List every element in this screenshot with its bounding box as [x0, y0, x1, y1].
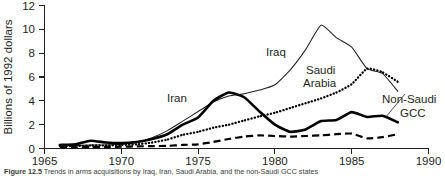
x-tick-label-1980: 1980	[262, 155, 288, 167]
y-tick-label-8: 8	[29, 47, 35, 59]
x-tick-label-1985: 1985	[339, 155, 365, 167]
y-tick-label-4: 4	[29, 95, 36, 107]
y-tick-label-12: 12	[22, 0, 35, 12]
series-label-non-saudi-gcc-line1: Non-Saudi	[382, 93, 436, 105]
line-chart: 12 10 8 6 4 2 0 1965 1970 1975 1980 1985…	[0, 0, 445, 176]
series-label-non-saudi-gcc: Non-Saudi GCC	[382, 93, 436, 119]
figure-container: 12 10 8 6 4 2 0 1965 1970 1975 1980 1985…	[0, 0, 445, 176]
figure-caption-number: 12.5	[28, 167, 42, 176]
series-label-non-saudi-gcc-line2: GCC	[400, 107, 426, 119]
x-tick-label-1990: 1990	[416, 155, 442, 167]
series-label-saudi-arabia-line1: Saudi	[306, 64, 335, 76]
y-tick-label-10: 10	[22, 23, 35, 35]
series-label-iran: Iran	[167, 92, 187, 104]
y-tick-label-6: 6	[29, 71, 35, 83]
series-label-iraq: Iraq	[266, 46, 286, 58]
series-line-iran	[60, 92, 398, 144]
x-tick-label-1970: 1970	[109, 155, 135, 167]
figure-caption: Figure 12.5 Trends in arms acquisitions …	[4, 167, 441, 176]
y-tick-label-0: 0	[29, 143, 35, 155]
x-tick-group	[45, 149, 429, 155]
y-axis-title: Billions of 1992 dollars	[2, 19, 14, 134]
x-tick-label-1975: 1975	[185, 155, 211, 167]
figure-caption-label: Figure	[4, 167, 26, 176]
figure-caption-text: Trends in arms acquisitions by Iraq, Ira…	[44, 167, 318, 176]
y-tick-group	[39, 6, 45, 149]
y-tick-label-2: 2	[29, 119, 35, 131]
series-label-saudi-arabia: Saudi Arabia	[303, 64, 337, 89]
x-tick-label-1965: 1965	[32, 155, 58, 167]
series-label-saudi-arabia-line2: Arabia	[303, 77, 337, 89]
series-line-iraq	[60, 25, 398, 146]
